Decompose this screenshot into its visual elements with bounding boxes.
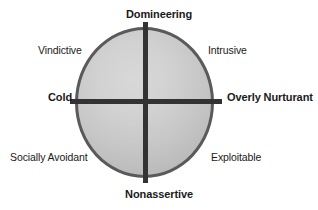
octant-label-vindictive: Vindictive: [38, 45, 82, 56]
octant-label-intrusive: Intrusive: [208, 45, 247, 56]
pole-label-cold: Cold: [48, 92, 72, 103]
circumplex-diagram: Domineering Nonassertive Cold Overly Nur…: [0, 0, 318, 210]
octant-label-socially-avoidant: Socially Avoidant: [10, 152, 88, 163]
pole-label-overly-nurturant: Overly Nurturant: [227, 92, 313, 103]
vertical-axis: [143, 22, 148, 183]
octant-label-exploitable: Exploitable: [211, 152, 261, 163]
pole-label-domineering: Domineering: [0, 9, 318, 20]
pole-label-nonassertive: Nonassertive: [0, 189, 318, 200]
